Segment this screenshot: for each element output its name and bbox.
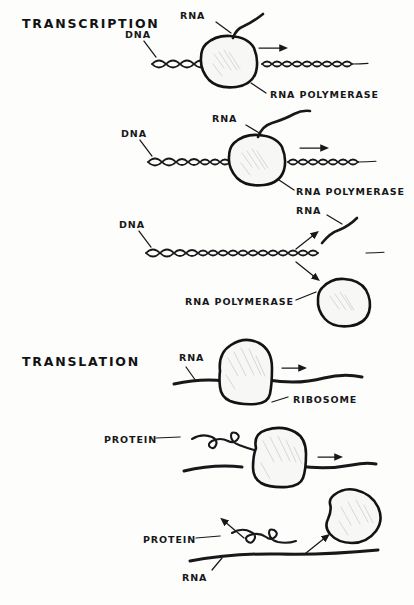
- protein-leader: [156, 437, 180, 438]
- free-rna-strand: [322, 218, 357, 243]
- dna-leader: [144, 41, 156, 57]
- dna-leader: [140, 140, 152, 156]
- rna-transcript: [233, 14, 263, 38]
- panel-4-rna-label: RNA: [179, 352, 204, 363]
- panel-3-dna-label: DNA: [119, 219, 145, 230]
- rna-polymerase-leader: [279, 180, 294, 190]
- ribosome-blob: [253, 428, 306, 487]
- dna-leader: [139, 231, 151, 247]
- rna-leader: [246, 125, 261, 134]
- translation-heading: TRANSLATION: [22, 354, 140, 369]
- panel-1-rna-label: RNA: [180, 10, 205, 21]
- rna-polymerase-leader: [251, 83, 266, 93]
- free-rna-polymerase-blob: [318, 279, 370, 326]
- rna-polymerase-leader: [296, 292, 316, 300]
- rna-polymerase-blob: [201, 36, 257, 87]
- panel-5-protein-label: PROTEIN: [104, 434, 157, 445]
- panel-2: DNA RNA RNA POLYMERASE: [121, 111, 405, 197]
- ribosome-blob: [326, 489, 380, 543]
- ribosome-leader: [272, 397, 288, 402]
- panel-5: PROTEIN: [104, 428, 376, 487]
- rna-leader: [186, 367, 196, 381]
- rna-leader: [216, 22, 231, 33]
- figure-sheet: TRANSCRIPTION DNA RNA RNA POLYMERASE DNA…: [0, 0, 414, 605]
- panel-1-rna-polymerase-label: RNA POLYMERASE: [270, 89, 379, 100]
- panel-6-protein-label: PROTEIN: [143, 534, 196, 545]
- ribosome-blob: [220, 340, 273, 404]
- rna-strand: [190, 550, 378, 561]
- rna-transcript: [258, 111, 310, 137]
- panel-2-rna-polymerase-label: RNA POLYMERASE: [296, 186, 405, 197]
- ribosome-release-arrow: [306, 537, 326, 553]
- polymerase-release-arrow: [296, 262, 316, 278]
- protein-chain: [192, 432, 254, 450]
- dna-strand: [152, 61, 368, 68]
- rna-leader: [212, 558, 222, 570]
- rna-leader: [327, 215, 342, 224]
- panel-6-rna-label: RNA: [182, 572, 207, 583]
- figure-canvas: TRANSCRIPTION DNA RNA RNA POLYMERASE DNA…: [0, 0, 414, 605]
- dna-strand: [146, 250, 384, 257]
- protein-leader: [196, 536, 220, 538]
- rna-polymerase-blob: [229, 135, 285, 185]
- panel-1: TRANSCRIPTION DNA RNA RNA POLYMERASE: [22, 10, 379, 100]
- rna-release-arrow: [296, 234, 315, 249]
- panel-3: DNA RNA RNA POLYMERASE: [119, 205, 384, 326]
- panel-1-dna-label: DNA: [125, 29, 151, 40]
- panel-4: TRANSLATION RNA RIBOSOME: [22, 340, 362, 405]
- panel-3-rna-polymerase-label: RNA POLYMERASE: [185, 296, 294, 307]
- panel-2-dna-label: DNA: [121, 128, 147, 139]
- panel-4-ribosome-label: RIBOSOME: [293, 394, 357, 405]
- panel-2-rna-label: RNA: [212, 113, 237, 124]
- panel-3-rna-label: RNA: [296, 205, 321, 216]
- panel-6: PROTEIN RNA: [143, 489, 381, 583]
